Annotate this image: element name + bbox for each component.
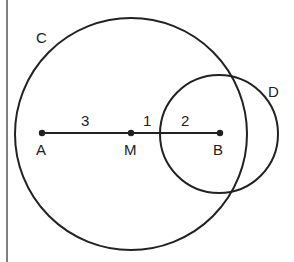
segment-am-length: 3 xyxy=(81,112,89,129)
circle-d-label: D xyxy=(268,83,279,100)
segment-d-b-length: 2 xyxy=(181,112,189,129)
point-b xyxy=(217,130,223,136)
point-b-label: B xyxy=(213,141,223,158)
point-a-label: A xyxy=(36,141,46,158)
point-a xyxy=(39,130,45,136)
circle-c-label: C xyxy=(36,29,47,46)
point-m xyxy=(128,130,134,136)
segment-m-d-length: 1 xyxy=(143,112,151,129)
point-m-label: M xyxy=(124,141,137,158)
geometry-diagram: C D A M B 3 1 2 xyxy=(0,0,294,262)
